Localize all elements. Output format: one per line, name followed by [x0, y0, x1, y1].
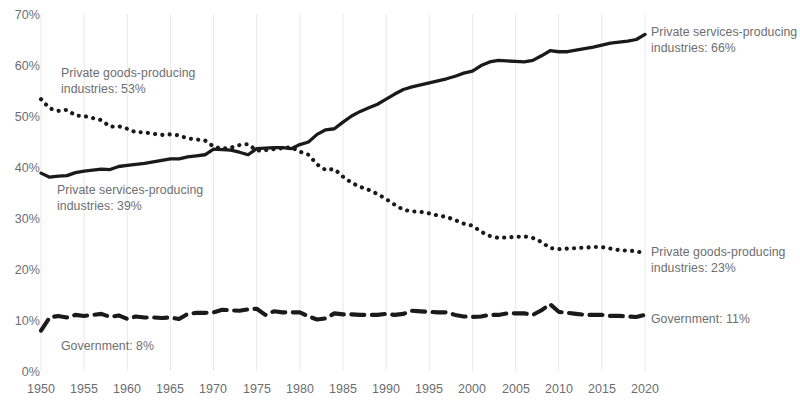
y-tick-label: 10% [2, 314, 40, 328]
annotation-government-start-line1: Government: 8% [61, 339, 154, 355]
annotation-services-start: Private services-producing industries: 3… [57, 183, 203, 214]
y-tick-label: 50% [2, 110, 40, 124]
x-tick-label: 1950 [19, 382, 63, 396]
y-tick-label: 40% [2, 161, 40, 175]
y-tick-label: 60% [2, 59, 40, 73]
annotation-goods-start-line2: industries: 53% [61, 82, 195, 98]
x-tick-label: 2005 [494, 382, 538, 396]
x-tick-label: 2015 [580, 382, 624, 396]
annotation-services-end-line2: industries: 66% [651, 41, 797, 57]
x-tick-label: 2000 [450, 382, 494, 396]
annotation-government-start: Government: 8% [61, 339, 154, 355]
x-tick-label: 1995 [407, 382, 451, 396]
x-tick-label: 2020 [623, 382, 667, 396]
annotation-goods-start-line1: Private goods-producing [61, 66, 195, 82]
annotation-government-end: Government: 11% [651, 312, 750, 328]
x-tick-label: 1970 [191, 382, 235, 396]
annotation-goods-end-line1: Private goods-producing [651, 245, 785, 261]
annotation-goods-end-line2: industries: 23% [651, 261, 785, 277]
x-tick-label: 1975 [235, 382, 279, 396]
annotation-services-start-line1: Private services-producing [57, 183, 203, 199]
x-tick-label: 1960 [105, 382, 149, 396]
annotation-services-end: Private services-producing industries: 6… [651, 25, 797, 56]
annotation-goods-end: Private goods-producing industries: 23% [651, 245, 785, 276]
annotation-services-end-line1: Private services-producing [651, 25, 797, 41]
x-tick-label: 1980 [278, 382, 322, 396]
annotation-goods-start: Private goods-producing industries: 53% [61, 66, 195, 97]
annotation-government-end-line1: Government: 11% [651, 312, 750, 328]
y-tick-label: 30% [2, 212, 40, 226]
chart-container: 70% 60% 50% 40% 30% 20% 10% 0% 1950 1955… [0, 0, 800, 403]
annotation-services-start-line2: industries: 39% [57, 199, 203, 215]
y-tick-label: 20% [2, 263, 40, 277]
y-tick-label: 0% [2, 365, 40, 379]
x-tick-label: 1955 [62, 382, 106, 396]
x-tick-label: 2010 [537, 382, 581, 396]
x-tick-label: 1965 [148, 382, 192, 396]
x-tick-label: 1990 [364, 382, 408, 396]
y-tick-label: 70% [2, 8, 40, 22]
x-tick-label: 1985 [321, 382, 365, 396]
